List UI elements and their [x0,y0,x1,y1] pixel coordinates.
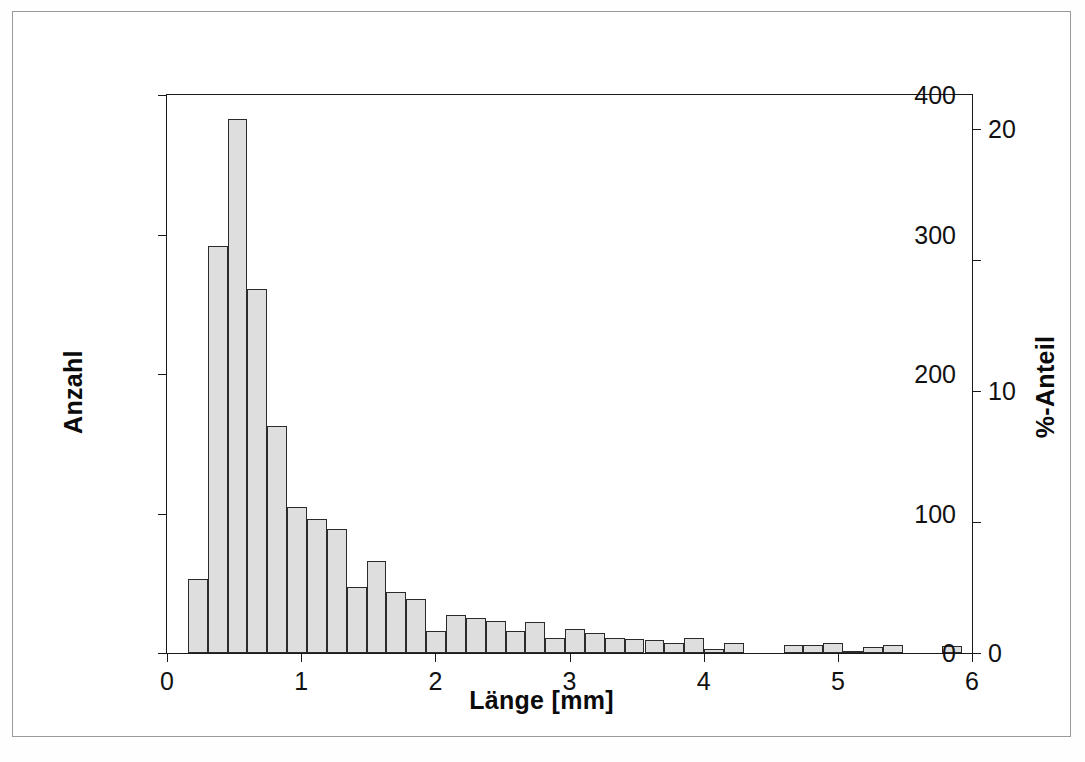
x-axis-tick-label: 6 [965,669,979,694]
histogram-bar [208,246,228,653]
y-axis-left-tick-label: 200 [914,362,956,387]
histogram-bar [267,426,287,653]
histogram-bar [883,645,903,653]
y-axis-right-tick-label: 10 [988,379,1016,404]
histogram-bar [565,629,585,653]
histogram-bar [406,599,426,653]
y-axis-left-tick [158,514,167,515]
histogram-bar [664,643,684,653]
histogram-bar [426,631,446,653]
x-axis-tick-label: 2 [428,669,442,694]
x-axis-tick [704,653,705,662]
y-axis-left-tick [158,235,167,236]
histogram-bar [386,592,406,653]
histogram-bar [446,615,466,653]
y-axis-left-tick-label: 300 [914,222,956,247]
histogram-bar [307,519,327,653]
histogram-bar [605,638,625,653]
histogram-bar [724,643,744,653]
histogram-bar [466,618,486,653]
histogram-bar [585,633,605,653]
figure-frame: 0123456010020030040001020 Länge [mm] Anz… [12,11,1071,737]
histogram-bar [803,645,823,653]
x-axis-tick-label: 0 [160,669,174,694]
y-axis-right-title: %-Anteil [1031,336,1060,438]
x-axis-tick [838,653,839,662]
histogram-bar [347,587,367,653]
histogram-bar [367,561,387,653]
histogram-bar [843,651,863,653]
y-axis-left-tick [158,374,167,375]
y-axis-left-tick-label: 400 [914,83,956,108]
x-axis-tick-label: 4 [697,669,711,694]
y-axis-right-tick [972,653,981,654]
histogram-bar [645,640,665,653]
histogram-bar [545,638,565,653]
histogram-bar [704,649,724,653]
plot-area: 0123456010020030040001020 [166,94,973,654]
histogram-bar [228,119,248,653]
x-axis-tick [301,653,302,662]
histogram-bar [247,289,267,653]
histogram-bar [863,647,883,653]
histogram-bar [287,507,307,653]
y-axis-right-tick-label: 0 [988,641,1002,666]
y-axis-left-tick [158,95,167,96]
histogram-bar [625,639,645,653]
y-axis-left-tick-label: 0 [942,641,956,666]
y-axis-right-tick [972,129,981,130]
x-axis-tick [167,653,168,662]
y-axis-right-tick [972,522,981,523]
histogram-bar [684,638,704,653]
histogram-bar [525,622,545,653]
figure-page: 0123456010020030040001020 Länge [mm] Anz… [0,0,1085,762]
x-axis-tick [570,653,571,662]
y-axis-right-tick-label: 20 [988,117,1016,142]
x-axis-tick-label: 1 [294,669,308,694]
histogram-bars [167,95,972,653]
y-axis-left-title: Anzahl [59,350,88,434]
x-axis-tick-label: 5 [831,669,845,694]
histogram-bar [188,579,208,653]
histogram-bar [486,621,506,653]
x-axis-title: Länge [mm] [469,686,614,715]
y-axis-left-tick [158,653,167,654]
y-axis-right-tick [972,391,981,392]
y-axis-left-tick-label: 100 [914,501,956,526]
histogram-bar [784,645,804,653]
x-axis-tick [972,653,973,662]
histogram-bar [327,529,347,653]
histogram-bar [506,631,526,653]
histogram-bar [823,643,843,653]
y-axis-right-tick [972,260,981,261]
x-axis-tick [435,653,436,662]
